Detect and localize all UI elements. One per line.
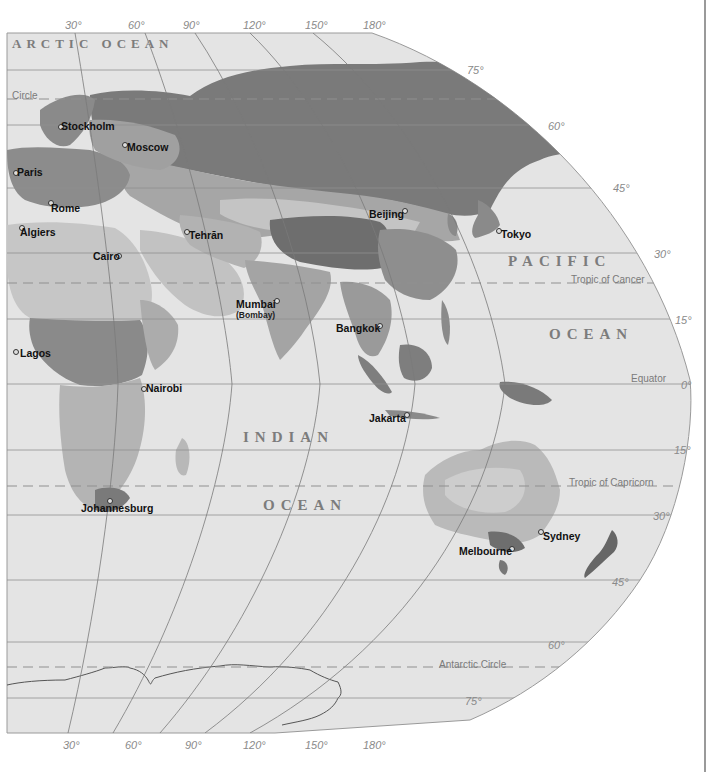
- longitude-label-bottom-30: 30°: [63, 739, 80, 751]
- latitude-label-60n: 60°: [548, 120, 565, 132]
- tropic-of-cancer-label: Tropic of Cancer: [571, 274, 645, 285]
- latitude-label-75s: 75°: [465, 695, 482, 707]
- latitude-label-45s: 45°: [612, 576, 629, 588]
- latitude-label-60s: 60°: [548, 639, 565, 651]
- city-label-mumbai-subtitle: (Bombay): [236, 310, 275, 320]
- city-marker-lagos: [13, 349, 19, 355]
- longitude-label-top-30: 30°: [65, 19, 82, 31]
- longitude-label-top-150: 150°: [305, 19, 328, 31]
- latitude-label-0: 0°: [681, 379, 692, 391]
- longitude-label-top-120: 120°: [243, 19, 266, 31]
- city-label-bangkok: Bangkok: [336, 322, 380, 334]
- indian-ocean-label-1: INDIAN: [243, 429, 334, 446]
- latitude-label-30n: 30°: [654, 248, 671, 260]
- pacific-ocean-label-2: OCEAN: [549, 326, 633, 343]
- page-edge-rule: [704, 0, 706, 772]
- city-label-nairobi: Nairobi: [146, 382, 182, 394]
- latitude-label-75n: 75°: [467, 64, 484, 76]
- longitude-label-bottom-90: 90°: [185, 739, 202, 751]
- eastern-hemisphere-map: [0, 0, 707, 772]
- equator-label: Equator: [631, 373, 666, 384]
- city-label-tokyo: Tokyo: [501, 228, 531, 240]
- latitude-label-15s: 15°: [674, 444, 691, 456]
- latitude-label-45n: 45°: [613, 182, 630, 194]
- city-label-rome: Rome: [51, 202, 80, 214]
- city-label-beijing: Beijing: [369, 208, 404, 220]
- city-label-tehran: Tehrān: [189, 229, 223, 241]
- city-label-jakarta: Jakarta: [369, 412, 406, 424]
- longitude-label-bottom-120: 120°: [243, 739, 266, 751]
- longitude-label-top-60: 60°: [128, 19, 145, 31]
- city-label-mumbai: Mumbai: [236, 298, 276, 310]
- city-label-melbourne: Melbourne: [459, 545, 512, 557]
- latitude-label-30s: 30°: [653, 510, 670, 522]
- city-label-paris: Paris: [17, 166, 43, 178]
- antarctic-circle-label: Antarctic Circle: [439, 659, 506, 670]
- arctic-ocean-label: ARCTIC OCEAN: [12, 36, 173, 52]
- city-label-cairo: Cairo: [93, 250, 120, 262]
- city-label-stockholm: Stockholm: [61, 120, 115, 132]
- city-label-moscow: Moscow: [127, 141, 168, 153]
- longitude-label-top-180: 180°: [363, 19, 386, 31]
- longitude-label-top-90: 90°: [183, 19, 200, 31]
- city-label-johannesburg: Johannesburg: [81, 502, 153, 514]
- tropic-of-capricorn-label: Tropic of Capricorn: [569, 477, 654, 488]
- longitude-label-bottom-150: 150°: [305, 739, 328, 751]
- pacific-ocean-label-1: PACIFIC: [508, 253, 611, 270]
- longitude-label-bottom-180: 180°: [363, 739, 386, 751]
- city-label-sydney: Sydney: [543, 530, 580, 542]
- city-label-algiers: Algiers: [20, 226, 56, 238]
- city-label-lagos: Lagos: [20, 347, 51, 359]
- arctic-circle-label: Circle: [12, 90, 38, 101]
- latitude-label-15n: 15°: [675, 314, 692, 326]
- longitude-label-bottom-60: 60°: [125, 739, 142, 751]
- indian-ocean-label-2: OCEAN: [263, 497, 347, 514]
